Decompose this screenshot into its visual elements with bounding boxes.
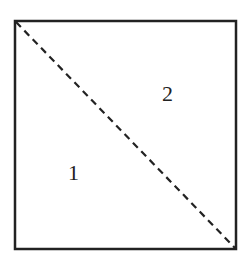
region-label-1: 1	[68, 160, 79, 185]
square-diagram: 1 2	[0, 0, 240, 265]
region-label-2: 2	[162, 81, 173, 106]
diagonal-dashed-line	[16, 22, 235, 248]
